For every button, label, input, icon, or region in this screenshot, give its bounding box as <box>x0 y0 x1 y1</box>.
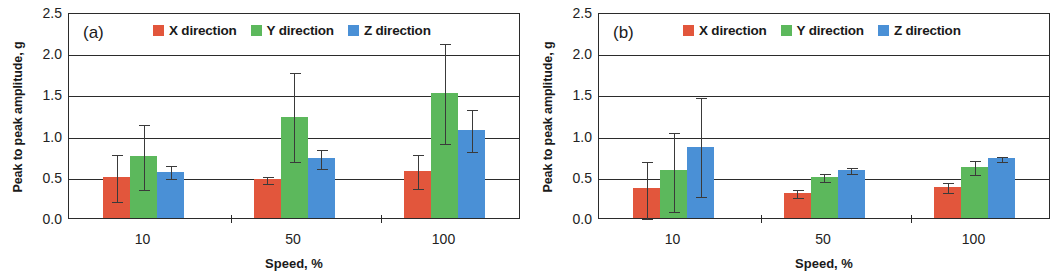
error-bar-cap-bottom <box>669 212 680 213</box>
x-tick-label: 10 <box>633 231 713 247</box>
legend-item[interactable]: Y direction <box>781 23 864 38</box>
error-bar <box>701 98 702 198</box>
legend-item[interactable]: Z direction <box>878 23 961 38</box>
error-bar <box>1002 157 1003 164</box>
y-tick-label: 0.5 <box>28 171 62 185</box>
x-axis-title: Speed, % <box>598 256 1050 271</box>
y-tick-label: 2.0 <box>28 47 62 61</box>
error-bar <box>472 110 473 153</box>
error-bar-cap-bottom <box>112 202 123 203</box>
error-bar-cap-top <box>263 177 274 178</box>
bar <box>254 179 281 218</box>
error-bar-cap-top <box>669 133 680 134</box>
bar <box>838 170 865 218</box>
legend-item[interactable]: X direction <box>153 23 237 38</box>
error-bar-cap-top <box>997 157 1008 158</box>
figure-two-panel-bar-charts: Peak to peak amplitude, g2.52.01.51.00.5… <box>0 0 1060 276</box>
legend-label: X direction <box>699 23 767 38</box>
legend-swatch-icon <box>348 25 359 36</box>
legend-item[interactable]: Y direction <box>251 23 334 38</box>
error-bar-cap-bottom <box>696 197 707 198</box>
error-bar <box>294 73 295 164</box>
legend: X directionY directionZ direction <box>153 23 431 38</box>
panel-tag: (b) <box>613 23 634 43</box>
error-bar-cap-bottom <box>793 198 804 199</box>
plot-area <box>598 13 1050 219</box>
panel-tag: (a) <box>83 23 104 43</box>
error-bar-cap-bottom <box>820 182 831 183</box>
error-bar-cap-bottom <box>943 193 954 194</box>
gridline <box>69 55 519 56</box>
error-bar-cap-top <box>166 166 177 167</box>
error-bar-cap-bottom <box>467 152 478 153</box>
legend-swatch-icon <box>683 25 694 36</box>
gridline <box>599 55 1049 56</box>
y-tick-label: 0.0 <box>558 212 592 226</box>
error-bar <box>975 161 976 176</box>
error-bar <box>418 155 419 190</box>
error-bar <box>144 125 145 191</box>
legend: X directionY directionZ direction <box>683 23 961 38</box>
legend-item[interactable]: X direction <box>683 23 767 38</box>
error-bar <box>851 168 852 175</box>
error-bar-cap-bottom <box>139 190 150 191</box>
y-tick-label: 1.0 <box>558 130 592 144</box>
error-bar-cap-bottom <box>847 174 858 175</box>
y-tick-label: 0.0 <box>28 212 62 226</box>
x-tick-mark <box>761 215 762 223</box>
error-bar <box>647 162 648 220</box>
error-bar-cap-bottom <box>317 169 328 170</box>
error-bar-cap-bottom <box>166 179 177 180</box>
error-bar-cap-top <box>970 161 981 162</box>
error-bar-cap-bottom <box>970 175 981 176</box>
legend-label: X direction <box>169 23 237 38</box>
bar <box>988 158 1015 218</box>
error-bar-cap-bottom <box>290 162 301 163</box>
legend-swatch-icon <box>251 25 262 36</box>
error-bar <box>267 177 268 184</box>
legend-swatch-icon <box>878 25 889 36</box>
error-bar-cap-top <box>696 98 707 99</box>
x-tick-label: 50 <box>783 231 863 247</box>
x-tick-mark <box>231 215 232 223</box>
y-tick-label: 1.0 <box>28 130 62 144</box>
error-bar-cap-top <box>847 168 858 169</box>
error-bar <box>321 150 322 170</box>
error-bar-cap-top <box>139 125 150 126</box>
y-axis-tick-labels: 2.52.01.51.00.50.0 <box>552 0 592 230</box>
x-axis-title: Speed, % <box>68 256 520 271</box>
error-bar <box>674 133 675 214</box>
error-bar-cap-top <box>642 162 653 163</box>
error-bar <box>797 190 798 199</box>
x-tick-label: 10 <box>103 231 183 247</box>
error-bar-cap-top <box>440 44 451 45</box>
error-bar <box>824 174 825 183</box>
x-tick-mark <box>911 215 912 223</box>
plot-area <box>68 13 520 219</box>
error-bar <box>117 155 118 203</box>
legend-item[interactable]: Z direction <box>348 23 431 38</box>
error-bar-cap-bottom <box>997 162 1008 163</box>
y-tick-label: 2.5 <box>558 6 592 20</box>
chart-panel-b: Peak to peak amplitude, g2.52.01.51.00.5… <box>530 0 1060 276</box>
error-bar-cap-top <box>467 110 478 111</box>
error-bar-cap-top <box>943 183 954 184</box>
error-bar <box>171 166 172 180</box>
chart-panel-a: Peak to peak amplitude, g2.52.01.51.00.5… <box>0 0 530 276</box>
error-bar-cap-top <box>413 155 424 156</box>
x-tick-label: 100 <box>404 231 484 247</box>
error-bar-cap-bottom <box>263 184 274 185</box>
error-bar-cap-top <box>112 155 123 156</box>
y-axis-tick-labels: 2.52.01.51.00.50.0 <box>22 0 62 230</box>
error-bar-cap-top <box>793 190 804 191</box>
legend-swatch-icon <box>153 25 164 36</box>
y-tick-label: 2.0 <box>558 47 592 61</box>
x-tick-mark <box>381 215 382 223</box>
y-tick-label: 0.5 <box>558 171 592 185</box>
error-bar-cap-bottom <box>440 144 451 145</box>
y-tick-label: 1.5 <box>28 88 62 102</box>
gridline <box>599 138 1049 139</box>
legend-label: Y direction <box>797 23 864 38</box>
gridline <box>599 96 1049 97</box>
legend-label: Y direction <box>267 23 334 38</box>
